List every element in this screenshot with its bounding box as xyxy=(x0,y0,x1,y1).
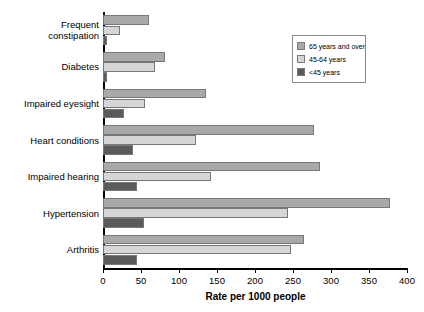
bar xyxy=(103,89,206,99)
bar xyxy=(103,135,196,145)
bar xyxy=(103,245,291,255)
x-tick-label: 100 xyxy=(171,275,187,286)
bar xyxy=(103,198,390,208)
x-tick-label: 0 xyxy=(100,275,105,286)
x-axis-title: Rate per 1000 people xyxy=(103,291,408,302)
bar xyxy=(103,255,137,265)
category-label: Diabetes xyxy=(1,61,99,72)
bar xyxy=(103,218,144,228)
bar xyxy=(103,72,107,82)
x-tick-label: 150 xyxy=(209,275,225,286)
legend-swatch-icon xyxy=(297,68,305,76)
x-tick xyxy=(217,268,218,273)
x-tick xyxy=(103,268,104,273)
category-label: Hypertension xyxy=(1,208,99,219)
legend-swatch-icon xyxy=(297,55,305,63)
legend-label: 65 years and over xyxy=(309,43,365,50)
x-tick-label: 50 xyxy=(136,275,147,286)
category-label: Frequent constipation xyxy=(1,19,99,41)
bar xyxy=(103,15,149,25)
x-tick-label: 350 xyxy=(361,275,377,286)
bar xyxy=(103,26,120,36)
bar xyxy=(103,208,288,218)
x-tick-label: 400 xyxy=(399,275,415,286)
bar xyxy=(103,125,314,135)
x-tick xyxy=(407,268,408,273)
category-label: Impaired hearing xyxy=(1,171,99,182)
bar xyxy=(103,145,133,155)
bar xyxy=(103,99,145,109)
bar-chart: Frequent constipationDiabetesImpaired ey… xyxy=(0,0,424,312)
x-tick xyxy=(179,268,180,273)
x-tick xyxy=(369,268,370,273)
x-tick xyxy=(141,268,142,273)
chart-legend: 65 years and over45-64 years<45 years xyxy=(292,35,366,83)
bar xyxy=(103,172,211,182)
bar xyxy=(103,52,165,62)
x-tick-label: 200 xyxy=(247,275,263,286)
bar xyxy=(103,62,155,72)
category-label: Impaired eyesight xyxy=(1,98,99,109)
x-tick-label: 300 xyxy=(323,275,339,286)
y-axis-category-labels: Frequent constipationDiabetesImpaired ey… xyxy=(0,12,99,268)
category-label: Heart conditions xyxy=(1,135,99,146)
x-tick xyxy=(255,268,256,273)
legend-item: <45 years xyxy=(297,66,361,78)
x-tick xyxy=(293,268,294,273)
bar xyxy=(103,235,304,245)
legend-item: 45-64 years xyxy=(297,53,361,65)
legend-item: 65 years and over xyxy=(297,40,361,52)
legend-label: 45-64 years xyxy=(309,56,346,63)
x-tick-label: 250 xyxy=(285,275,301,286)
bar xyxy=(103,162,320,172)
bar xyxy=(103,182,137,192)
bar xyxy=(103,36,107,46)
bar xyxy=(103,109,124,119)
x-tick xyxy=(331,268,332,273)
legend-swatch-icon xyxy=(297,42,305,50)
legend-label: <45 years xyxy=(309,69,340,76)
category-label: Arthritis xyxy=(1,244,99,255)
